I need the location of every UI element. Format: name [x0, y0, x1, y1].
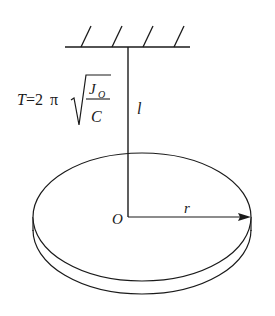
formula-pi: π [50, 91, 58, 108]
hatch-mark [112, 26, 122, 47]
formula-denominator: C [91, 108, 102, 125]
radius-label: r [184, 200, 190, 216]
hatch-mark [174, 26, 184, 47]
hatch-mark [81, 26, 91, 47]
rod-length-label: l [137, 100, 142, 117]
formula-numerator-subscript: O [98, 89, 105, 100]
hatch-mark [143, 26, 153, 47]
pendulum-diagram: O r l T =2 π J O C [0, 0, 275, 316]
period-formula: T =2 π J O C [17, 75, 111, 125]
center-label: O [112, 211, 123, 227]
formula-equals-two: =2 [26, 91, 43, 108]
formula-numerator: J [89, 81, 97, 97]
ceiling-support [65, 26, 190, 47]
